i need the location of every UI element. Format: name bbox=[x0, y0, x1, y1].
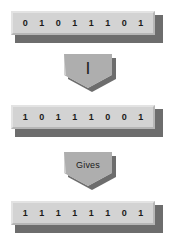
operand-b-bit-2: 1 bbox=[51, 113, 65, 122]
operand-b-bit-5: 0 bbox=[101, 113, 115, 122]
result-bit-3: 1 bbox=[68, 209, 82, 218]
operand-b-bit-1: 0 bbox=[35, 113, 49, 122]
result-bit-7: 1 bbox=[134, 209, 148, 218]
operand-a-bit-3: 1 bbox=[68, 19, 82, 28]
operand-a-bit-1: 1 bbox=[35, 19, 49, 28]
operand-a-bar-face: 0 1 0 1 1 1 0 1 bbox=[11, 11, 155, 35]
operand-b-bit-3: 1 bbox=[68, 113, 82, 122]
operand-a-bit-7: 1 bbox=[134, 19, 148, 28]
operand-a-bit-5: 1 bbox=[101, 19, 115, 28]
result-bit-2: 1 bbox=[51, 209, 65, 218]
operand-b-bit-7: 1 bbox=[134, 113, 148, 122]
result-bit-5: 1 bbox=[101, 209, 115, 218]
bitwise-or-diagram: 0 1 0 1 1 1 0 1 | 1 0 1 1 1 0 0 1 bbox=[0, 0, 176, 242]
result-bit-1: 1 bbox=[35, 209, 49, 218]
operand-a-bit-2: 0 bbox=[51, 19, 65, 28]
operand-b-bar-face: 1 0 1 1 1 0 0 1 bbox=[11, 105, 155, 129]
result-bit-6: 0 bbox=[117, 209, 131, 218]
gives-label: Gives bbox=[76, 161, 100, 170]
result-bit-bar: 1 1 1 1 1 1 0 1 bbox=[11, 201, 159, 229]
operand-b-bit-bar: 1 0 1 1 1 0 0 1 bbox=[11, 105, 159, 133]
operand-b-bit-6: 0 bbox=[117, 113, 131, 122]
operand-b-bit-0: 1 bbox=[18, 113, 32, 122]
result-bit-4: 1 bbox=[84, 209, 98, 218]
operand-a-bit-4: 1 bbox=[84, 19, 98, 28]
result-bit-0: 1 bbox=[18, 209, 32, 218]
bitwise-or-operator-tag: | bbox=[64, 54, 116, 92]
pipe-icon: | bbox=[86, 61, 90, 73]
operand-a-bit-bar: 0 1 0 1 1 1 0 1 bbox=[11, 11, 159, 39]
operand-a-bit-6: 0 bbox=[117, 19, 131, 28]
operand-b-bit-4: 1 bbox=[84, 113, 98, 122]
gives-arrow-tag: Gives bbox=[64, 152, 116, 190]
operand-a-bit-0: 0 bbox=[18, 19, 32, 28]
result-bar-face: 1 1 1 1 1 1 0 1 bbox=[11, 201, 155, 225]
